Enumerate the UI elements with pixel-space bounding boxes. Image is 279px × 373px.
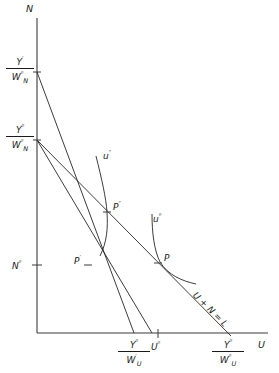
y-tick-label-mid: Y⁰ W⁰N [6, 124, 34, 153]
y-tick-mid-denominator: W⁰N [6, 138, 34, 152]
x-tick-left-denominator: W′U [118, 353, 150, 367]
y-axis-label: N [26, 3, 33, 14]
y-tick-label-low: N⁰ [12, 260, 21, 271]
x-tick-label-left: Y⁰ W′U [118, 339, 150, 368]
y-tick-label-high: Y′ W⁰N [6, 56, 34, 85]
x-tick-label-right: Y⁰ W⁰U [212, 339, 244, 368]
x-tick-right-numerator: Y⁰ [212, 339, 244, 351]
x-tick-right-denominator: W⁰U [212, 353, 244, 367]
diagram-canvas [0, 0, 279, 373]
fraction-bar [118, 351, 150, 352]
curve-label-u-zero: u⁰ [153, 213, 161, 224]
x-tick-left-numerator: Y⁰ [118, 339, 150, 351]
secondary-ray-line [37, 140, 152, 333]
x-axis-label: U [258, 339, 265, 350]
labour-supply-indifference-diagram: N U Y′ W⁰N Y⁰ W⁰N N⁰ Y⁰ W′U U⁰ Y⁰ W⁰U u″… [0, 0, 279, 373]
x-tick-label-mid: U⁰ [151, 341, 160, 352]
y-tick-high-denominator: W⁰N [6, 70, 34, 84]
point-label-p: P [164, 252, 169, 263]
point-label-p-prime: P′ [74, 255, 81, 266]
indifference-curve-u-zero [152, 214, 196, 284]
y-tick-mid-numerator: Y⁰ [6, 124, 34, 136]
point-label-p-double-prime: P″ [113, 201, 121, 212]
y-tick-high-numerator: Y′ [6, 56, 34, 68]
curve-label-u-double-prime: u″ [103, 150, 111, 161]
